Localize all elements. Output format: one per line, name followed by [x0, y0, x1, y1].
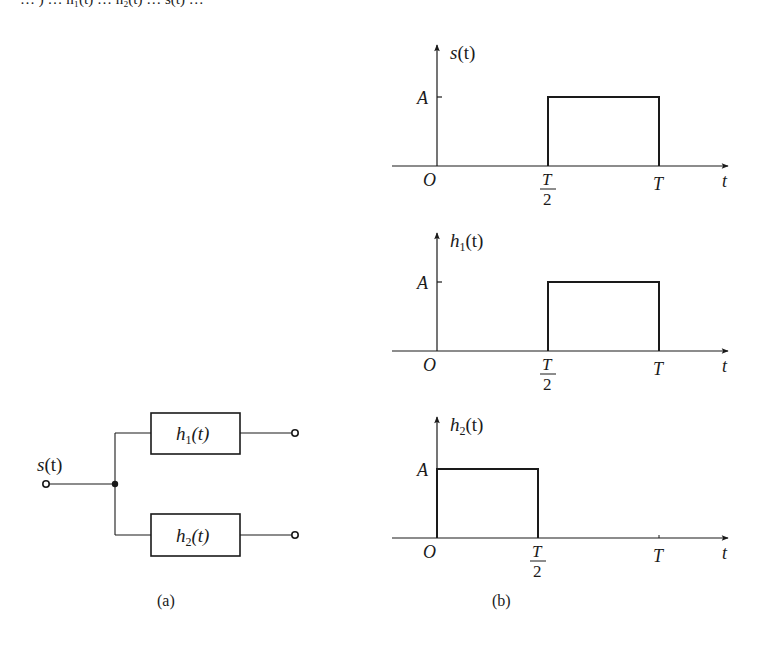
- h2-output-terminal: [292, 532, 298, 538]
- block-h2-label: h2(t): [176, 525, 209, 549]
- h1-output-terminal: [292, 430, 298, 436]
- pulse-waveform: [548, 282, 659, 351]
- caption-a: (a): [157, 592, 175, 610]
- origin-label: O: [423, 170, 436, 190]
- tick-label-half-den: 2: [543, 190, 552, 209]
- y-axis-label: s(t): [450, 42, 475, 64]
- input-label: s(t): [37, 454, 62, 476]
- x-axis-label: t: [722, 171, 728, 191]
- waveform-plots-b: s(t)AOtT2Th1(t)AOtT2Th2(t)AOtT2T: [392, 42, 728, 581]
- top-clipped-text: … ) … h₁(t) … h₂(t) … s(t) …: [20, 0, 204, 8]
- caption-b: (b): [492, 592, 511, 610]
- plot-2: h1(t)AOtT2T: [392, 230, 728, 394]
- tick-label-half-num: T: [542, 355, 553, 374]
- plot-1: s(t)AOtT2T: [392, 42, 728, 209]
- y-axis-label: h2(t): [450, 414, 483, 438]
- tick-label-T: T: [653, 546, 665, 566]
- amplitude-label: A: [416, 460, 429, 480]
- tick-label-half-den: 2: [533, 562, 542, 581]
- block-h1-label: h1(t): [176, 423, 209, 447]
- origin-label: O: [423, 355, 436, 375]
- pulse-waveform: [548, 97, 659, 166]
- x-axis-label: t: [722, 356, 728, 376]
- origin-label: O: [423, 542, 436, 562]
- x-axis-label: t: [722, 543, 728, 563]
- y-axis-label: h1(t): [450, 230, 483, 254]
- tick-label-half-num: T: [532, 542, 543, 561]
- amplitude-label: A: [416, 88, 429, 108]
- tick-label-T: T: [653, 174, 665, 194]
- amplitude-label: A: [416, 273, 429, 293]
- block-diagram-a: s(t) h1(t) h2(t) (a): [37, 413, 298, 610]
- input-terminal: [43, 481, 49, 487]
- figure-canvas: … ) … h₁(t) … h₂(t) … s(t) … s(t) h1(t) …: [0, 0, 758, 648]
- tick-label-half-num: T: [542, 170, 553, 189]
- tick-label-half-den: 2: [543, 375, 552, 394]
- pulse-waveform: [437, 469, 538, 538]
- plot-3: h2(t)AOtT2T: [392, 414, 728, 581]
- tick-label-T: T: [653, 359, 665, 379]
